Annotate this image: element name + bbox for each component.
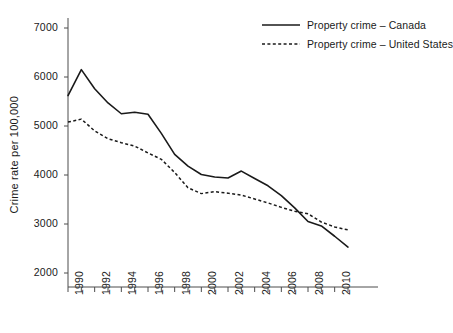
legend-item: Property crime – United States <box>262 37 453 50</box>
axes <box>64 18 378 292</box>
series-line-canada <box>68 70 348 247</box>
chart-legend: Property crime – CanadaProperty crime – … <box>262 18 453 50</box>
legend-item: Property crime – Canada <box>262 18 453 31</box>
legend-label: Property crime – United States <box>307 38 453 50</box>
property-crime-line-chart: Crime rate per 100,000 20003000400050006… <box>0 0 453 333</box>
legend-dashed-line-icon <box>262 39 300 49</box>
legend-label: Property crime – Canada <box>307 19 426 31</box>
data-series <box>68 70 348 247</box>
series-line-united-states <box>68 119 348 230</box>
legend-solid-line-icon <box>262 20 300 30</box>
